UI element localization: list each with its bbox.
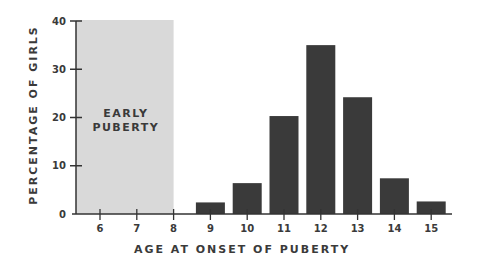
y-tick-label: 10 — [52, 160, 66, 171]
x-tick-label: 10 — [240, 223, 254, 234]
x-tick-label: 7 — [133, 223, 140, 234]
early-puberty-label-line1: EARLY — [103, 107, 148, 120]
x-tick-label: 11 — [277, 223, 291, 234]
x-axis-title: AGE AT ONSET OF PUBERTY — [134, 243, 350, 256]
x-tick-label: 9 — [207, 223, 214, 234]
early-puberty-label-line2: PUBERTY — [92, 121, 159, 134]
y-tick-label: 40 — [52, 16, 66, 27]
y-tick-label: 0 — [59, 209, 66, 220]
bar-age-12 — [306, 45, 335, 214]
x-tick-label: 8 — [170, 223, 177, 234]
bar-age-11 — [270, 116, 299, 214]
x-tick-label: 15 — [424, 223, 438, 234]
x-tick-label: 6 — [97, 223, 104, 234]
bar-age-13 — [343, 97, 372, 214]
y-tick-label: 30 — [52, 64, 66, 75]
bars-group — [196, 45, 446, 214]
y-tick-label: 20 — [52, 112, 66, 123]
x-tick-label: 12 — [314, 223, 328, 234]
y-axis-title: PERCENTAGE OF GIRLS — [27, 25, 40, 205]
bar-age-14 — [380, 178, 409, 214]
x-tick-label: 13 — [351, 223, 365, 234]
bar-chart: EARLY PUBERTY 010203040 6789101112131415… — [0, 0, 481, 268]
x-tick-label: 14 — [387, 223, 401, 234]
